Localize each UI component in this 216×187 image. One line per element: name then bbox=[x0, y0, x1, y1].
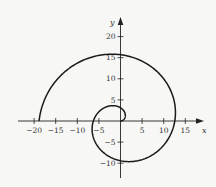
spiral-chart: x −20−15−10−551015 y 2015105−5−10 bbox=[0, 0, 216, 187]
x-tick-label: 10 bbox=[159, 126, 169, 135]
y-tick-label: 5 bbox=[111, 96, 116, 105]
x-tick-label: −15 bbox=[48, 126, 64, 135]
x-axis: x −20−15−10−551015 bbox=[18, 118, 207, 135]
y-ticks: 2015105−5−10 bbox=[100, 32, 124, 168]
y-axis-arrow-icon bbox=[118, 17, 124, 25]
x-tick-label: 15 bbox=[181, 126, 191, 135]
y-tick-label: −10 bbox=[100, 159, 116, 168]
x-tick-label: 5 bbox=[140, 126, 145, 135]
y-tick-label: 10 bbox=[106, 74, 116, 83]
x-axis-arrow-icon bbox=[196, 118, 204, 124]
y-tick-label: 20 bbox=[106, 32, 116, 41]
x-tick-label: −10 bbox=[69, 126, 85, 135]
x-axis-label: x bbox=[202, 126, 207, 135]
x-tick-label: −20 bbox=[26, 126, 42, 135]
x-tick-label: −5 bbox=[93, 126, 104, 135]
y-axis: y 2015105−5−10 bbox=[100, 17, 124, 178]
y-axis-label: y bbox=[109, 18, 115, 27]
y-tick-label: −5 bbox=[104, 138, 115, 147]
